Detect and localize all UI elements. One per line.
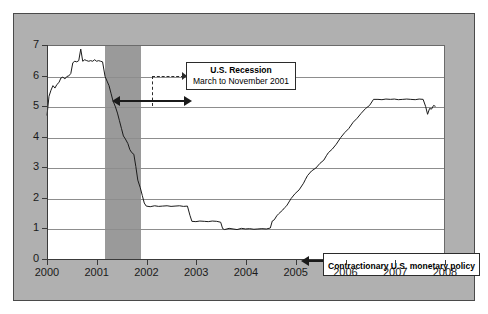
x-tick-label-2002: 2002 — [127, 266, 167, 278]
y-tick-label-6: 6 — [15, 69, 39, 81]
y-tick-label-0: 0 — [15, 252, 39, 264]
x-tick-2001 — [97, 260, 98, 265]
y-tick-label-4: 4 — [15, 130, 39, 142]
y-tick-label-7: 7 — [15, 38, 39, 50]
y-tick-label-2: 2 — [15, 191, 39, 203]
x-tick-2008 — [445, 260, 446, 265]
y-tick-3 — [42, 167, 47, 168]
x-tick-2004 — [246, 260, 247, 265]
x-tick-2007 — [395, 260, 396, 265]
y-tick-2 — [42, 198, 47, 199]
x-tick-2002 — [147, 260, 148, 265]
recession-span-arrow-left-head — [112, 96, 120, 106]
x-tick-label-2000: 2000 — [27, 266, 67, 278]
y-tick-label-5: 5 — [15, 99, 39, 111]
x-tick-2006 — [346, 260, 347, 265]
y-tick-label-1: 1 — [15, 221, 39, 233]
recession-annotation-box: U.S. Recession March to November 2001 — [186, 62, 296, 90]
y-tick-1 — [42, 228, 47, 229]
x-tick-label-2007: 2007 — [375, 266, 415, 278]
recession-span-arrow-right-head — [184, 96, 192, 106]
x-tick-label-2003: 2003 — [176, 266, 216, 278]
y-tick-5 — [42, 106, 47, 107]
y-tick-7 — [42, 45, 47, 46]
x-tick-2000 — [47, 260, 48, 265]
x-tick-label-2008: 2008 — [425, 266, 465, 278]
x-tick-label-2005: 2005 — [276, 266, 316, 278]
x-tick-label-2001: 2001 — [77, 266, 117, 278]
policy-annotation-arrowhead — [301, 256, 309, 266]
y-tick-6 — [42, 76, 47, 77]
x-tick-2003 — [196, 260, 197, 265]
recession-annotation-title: U.S. Recession — [191, 65, 291, 76]
recession-leader-horizontal — [152, 76, 184, 77]
y-axis-line — [47, 45, 48, 260]
recession-span-arrow-line — [119, 100, 185, 102]
x-tick-label-2004: 2004 — [226, 266, 266, 278]
x-tick-label-2006: 2006 — [326, 266, 366, 278]
recession-annotation-dates: March to November 2001 — [191, 76, 291, 87]
y-tick-4 — [42, 137, 47, 138]
chart-figure: Percent U.S. Recession March to November… — [13, 13, 475, 301]
x-tick-2005 — [296, 260, 297, 265]
y-tick-label-3: 3 — [15, 160, 39, 172]
